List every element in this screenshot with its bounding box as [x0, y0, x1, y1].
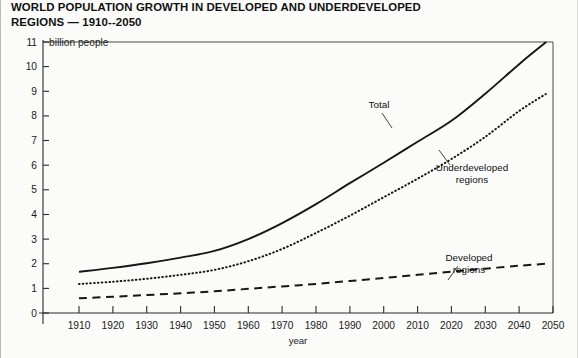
x-tick-label: 1970 — [271, 320, 294, 331]
x-tick-label: 1960 — [237, 320, 260, 331]
y-tick-label: 10 — [26, 61, 38, 72]
y-axis-tick-labels: 11 10 9 8 7 6 5 4 3 2 1 0 — [26, 37, 38, 319]
y-tick-label: 4 — [31, 209, 37, 220]
population-growth-line-chart: 11 10 9 8 7 6 5 4 3 2 1 0 billion people — [1, 0, 578, 358]
series-line-total — [79, 42, 546, 272]
x-tick-label: 1990 — [339, 320, 362, 331]
annotation-total-leader — [382, 113, 392, 128]
y-tick-label: 9 — [31, 86, 37, 97]
y-tick-label: 1 — [31, 283, 37, 294]
annotation-total-label: Total — [369, 99, 390, 110]
y-tick-label: 7 — [31, 135, 37, 146]
x-tick-label: 1910 — [68, 320, 91, 331]
y-tick-label: 0 — [31, 308, 37, 319]
y-axis-unit-label: billion people — [49, 37, 109, 48]
x-tick-label: 2000 — [372, 320, 395, 331]
x-tick-label: 1930 — [135, 320, 158, 331]
chart-page: WORLD POPULATION GROWTH IN DEVELOPED AND… — [0, 0, 578, 358]
annotation-developed-label-line2: regions — [453, 264, 485, 275]
x-axis-title: year — [289, 335, 308, 346]
y-axis-ticks — [43, 42, 49, 313]
x-tick-label: 2040 — [508, 320, 531, 331]
y-tick-label: 2 — [31, 258, 37, 269]
x-axis-ticks — [79, 306, 553, 313]
x-tick-label: 2010 — [406, 320, 429, 331]
x-tick-label: 1950 — [203, 320, 226, 331]
x-tick-label: 1980 — [305, 320, 328, 331]
annotation-underdeveloped-label-line1: Underdeveloped — [436, 162, 508, 173]
annotation-underdeveloped-label-line2: regions — [456, 174, 488, 185]
y-tick-label: 6 — [31, 160, 37, 171]
x-tick-label: 2020 — [440, 320, 463, 331]
x-tick-label: 1940 — [169, 320, 192, 331]
annotation-developed-label-line1: Developed — [445, 252, 492, 263]
x-tick-label: 2030 — [474, 320, 497, 331]
y-tick-label: 5 — [31, 184, 37, 195]
x-tick-label: 2050 — [542, 320, 565, 331]
x-tick-label: 1920 — [102, 320, 125, 331]
y-tick-label: 11 — [26, 37, 37, 48]
x-axis-tick-labels: 1910 1920 1930 1940 1950 1960 1970 1980 … — [68, 320, 565, 331]
y-tick-label: 8 — [31, 110, 37, 121]
y-tick-label: 3 — [31, 234, 37, 245]
